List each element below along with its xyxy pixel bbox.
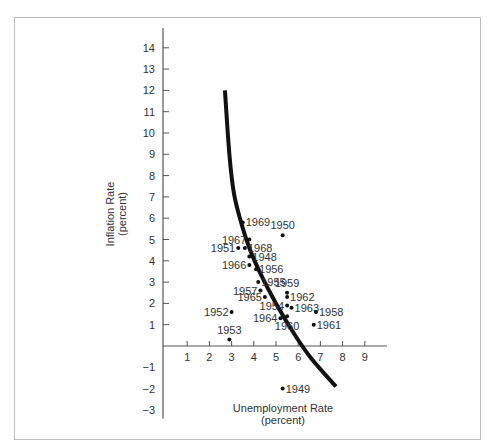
- x-tick-label: 4: [251, 351, 257, 363]
- x-axis-title: Unemployment Rate: [233, 402, 333, 414]
- data-point-label: 1950: [270, 219, 294, 231]
- data-point-label: 1948: [252, 251, 276, 263]
- data-point-label: 1961: [317, 319, 341, 331]
- y-tick-label: 14: [143, 42, 155, 54]
- data-point-marker: [285, 291, 289, 295]
- y-tick-label: −2: [142, 383, 155, 395]
- data-point-marker: [236, 246, 240, 250]
- data-point-label: 1959: [275, 277, 299, 289]
- x-tick-label: 1: [184, 351, 190, 363]
- x-tick-label: 7: [317, 351, 323, 363]
- data-point-label: 1960: [275, 320, 299, 332]
- y-axis-title: Inflation Rate: [104, 182, 116, 247]
- data-point-marker: [314, 310, 318, 314]
- data-point-label: 1964: [253, 312, 277, 324]
- data-point-marker: [263, 295, 267, 299]
- data-point-marker: [285, 295, 289, 299]
- y-tick-label: 1: [149, 319, 155, 331]
- y-tick-label: 11: [144, 106, 155, 118]
- data-point-marker: [281, 387, 285, 391]
- y-tick-label: 7: [149, 191, 155, 203]
- y-tick-label: 12: [143, 84, 155, 96]
- x-tick-label: 3: [229, 351, 235, 363]
- x-tick-label: 8: [340, 351, 346, 363]
- data-point-marker: [247, 263, 251, 267]
- data-point-marker: [247, 255, 251, 259]
- data-point-label: 1956: [259, 263, 283, 275]
- data-point-marker: [243, 246, 247, 250]
- data-point-label: 1969: [246, 216, 270, 228]
- x-axis-unit: (percent): [261, 414, 305, 426]
- data-point-label: 1949: [286, 383, 310, 395]
- y-tick-label: 10: [143, 127, 155, 139]
- x-tick-label: 9: [362, 351, 368, 363]
- data-point-marker: [290, 306, 294, 310]
- data-point-label: 1954: [260, 300, 284, 312]
- y-axis-unit: (percent): [116, 192, 128, 236]
- y-tick-label: 2: [149, 297, 155, 309]
- data-point-label: 1966: [222, 259, 246, 271]
- y-tick-label: 6: [149, 212, 155, 224]
- data-point-marker: [281, 233, 285, 237]
- y-tick-label: −1: [142, 361, 155, 373]
- data-point-label: 1958: [319, 306, 343, 318]
- data-point-label: 1965: [237, 291, 261, 303]
- y-tick-label: 4: [149, 255, 155, 267]
- data-point-marker: [285, 304, 289, 308]
- data-points: 1969195019671951196819481966195619551957…: [204, 216, 343, 394]
- data-point-marker: [241, 220, 245, 224]
- x-tick-label: 2: [206, 351, 212, 363]
- data-point-marker: [312, 323, 316, 327]
- data-point-label: 1953: [217, 324, 241, 336]
- x-tick-label: 5: [273, 351, 279, 363]
- y-tick-label: 9: [149, 148, 155, 160]
- phillips-curve-chart: 1413121110987654321−1−2−3123456789 19691…: [0, 0, 490, 447]
- y-tick-label: 3: [149, 276, 155, 288]
- data-point-marker: [247, 238, 251, 242]
- y-tick-label: 13: [143, 63, 155, 75]
- data-point-label: 1951: [211, 242, 235, 254]
- x-tick-label: 6: [295, 351, 301, 363]
- y-tick-label: 8: [149, 170, 155, 182]
- data-point-marker: [256, 280, 260, 284]
- y-tick-label: 5: [149, 234, 155, 246]
- data-point-marker: [230, 310, 234, 314]
- data-point-label: 1952: [204, 306, 228, 318]
- data-point-marker: [285, 314, 289, 318]
- y-tick-label: −3: [142, 404, 155, 416]
- data-point-marker: [227, 338, 231, 342]
- data-point-marker: [254, 267, 258, 271]
